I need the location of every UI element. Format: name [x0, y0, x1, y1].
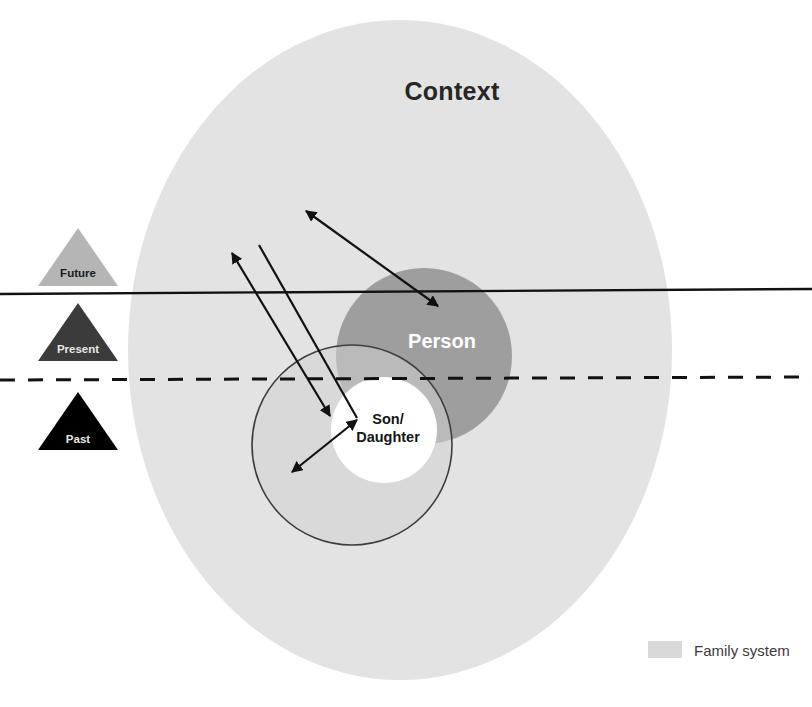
divider-line-dashed	[0, 377, 812, 380]
time-marker-present: Present	[38, 303, 118, 361]
legend-label-family-system: Family system	[694, 642, 790, 659]
present-label: Present	[57, 343, 99, 355]
systems-diagram: Future Present Past Context Person Son/ …	[0, 0, 812, 707]
past-label: Past	[66, 433, 90, 445]
future-label: Future	[60, 267, 96, 279]
time-marker-future: Future	[38, 228, 118, 286]
time-marker-past: Past	[38, 392, 118, 450]
diagram-canvas: Future Present Past Context Person Son/ …	[0, 0, 812, 707]
legend: Family system	[648, 641, 790, 659]
legend-swatch-family-system	[648, 641, 682, 658]
child-label-line1: Son/	[372, 411, 403, 427]
context-label: Context	[404, 77, 500, 105]
person-label: Person	[408, 330, 476, 352]
child-label-line2: Daughter	[356, 429, 420, 445]
